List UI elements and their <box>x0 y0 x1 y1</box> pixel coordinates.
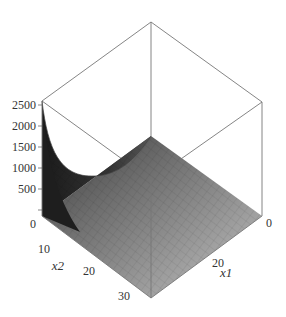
x2-tick-10: 10 <box>38 242 50 256</box>
z-tick-2500: 2500 <box>12 98 36 112</box>
z-axis <box>38 105 42 210</box>
z-tick-0: 0 <box>30 217 36 231</box>
x2-tick-20: 20 <box>83 264 95 278</box>
z-tick-2000: 2000 <box>12 119 36 133</box>
z-tick-1500: 1500 <box>12 140 36 154</box>
z-tick-500: 500 <box>18 182 36 196</box>
x2-axis-label: x2 <box>51 258 65 273</box>
x1-axis-label: x1 <box>219 265 232 280</box>
z-tick-1000: 1000 <box>12 161 36 175</box>
x2-tick-30: 30 <box>118 289 130 303</box>
surface-plot: 2500 2000 1500 1000 500 0 10 20 30 x2 0 … <box>0 0 286 317</box>
x1-tick-0: 0 <box>266 216 272 230</box>
